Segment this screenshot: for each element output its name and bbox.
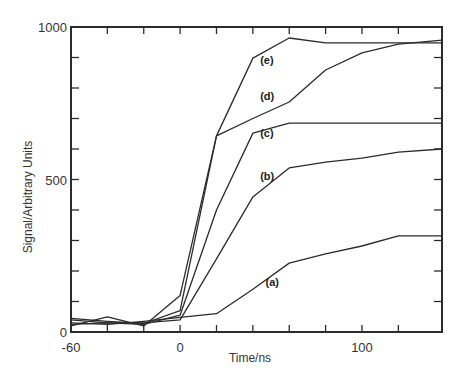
- y-tick-label: 500: [45, 173, 67, 188]
- series-line-b: [71, 149, 442, 323]
- x-tick-label: 100: [351, 340, 373, 355]
- x-axis-label: Time/ns: [229, 351, 271, 365]
- series-label-e: (e): [260, 54, 274, 66]
- series-labels: (e)(d)(c)(b)(a): [260, 54, 279, 289]
- series-label-d: (d): [260, 90, 274, 102]
- y-tick-label: 1000: [38, 20, 67, 35]
- x-tick-label: -60: [62, 340, 81, 355]
- series-label-c: (c): [260, 127, 274, 139]
- series-label-a: (a): [266, 276, 280, 288]
- x-tick-label: 0: [177, 340, 184, 355]
- series-label-b: (b): [260, 170, 274, 182]
- series-line-a: [71, 236, 442, 325]
- series-line-e: [71, 38, 442, 326]
- series-line-c: [71, 123, 442, 324]
- chart: -60010005001000 (e)(d)(c)(b)(a) Time/ns …: [0, 0, 466, 381]
- series-lines: [71, 38, 442, 326]
- y-tick-label: 0: [60, 325, 67, 340]
- series-line-d: [71, 40, 442, 323]
- y-axis-label: Signal/Arbitrary Units: [21, 141, 35, 254]
